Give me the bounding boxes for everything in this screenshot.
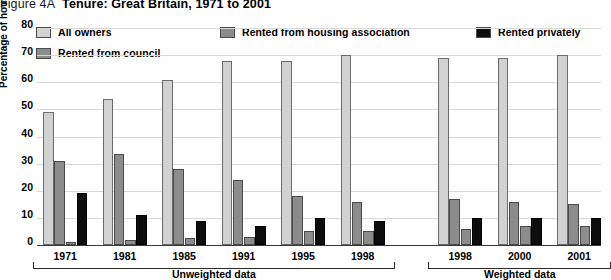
group-bracket-label: Weighted data <box>428 268 611 280</box>
y-axis-tick-label: 30 <box>0 154 33 166</box>
bar-rented-from-council <box>509 202 520 245</box>
bar-rented-privately <box>531 218 542 245</box>
bar-housing-association <box>580 226 591 245</box>
group-bracket-label: Unweighted data <box>33 268 395 280</box>
bar-rented-privately <box>77 193 88 245</box>
bar-group <box>281 28 325 245</box>
bar-group <box>43 28 87 245</box>
bar-rented-from-council <box>173 169 184 245</box>
bar-group <box>103 28 147 245</box>
bar-rented-from-council <box>568 204 579 245</box>
bar-rented-privately <box>196 221 207 245</box>
bar-group <box>498 28 542 245</box>
y-axis-tick-label: 20 <box>0 181 33 193</box>
bar-all-owners <box>103 99 114 245</box>
y-axis-tick-label: 50 <box>0 99 33 111</box>
bar-all-owners <box>438 58 449 245</box>
bar-rented-privately <box>315 218 326 245</box>
bar-rented-from-council <box>449 199 460 245</box>
bar-housing-association <box>185 238 196 245</box>
y-axis-tick-label: 80 <box>0 18 33 30</box>
y-axis-tick-label: 70 <box>0 45 33 57</box>
bar-housing-association <box>461 229 472 245</box>
y-axis-tick-label: 40 <box>0 127 33 139</box>
x-axis-tick-label: 1998 <box>430 250 490 262</box>
bar-all-owners <box>281 61 292 245</box>
bar-rented-privately <box>591 218 602 245</box>
bar-all-owners <box>557 55 568 245</box>
x-axis-tick-label: 1985 <box>154 250 214 262</box>
bar-all-owners <box>162 80 173 245</box>
bar-group <box>438 28 482 245</box>
bar-rented-from-council <box>233 180 244 245</box>
bar-housing-association <box>125 240 136 245</box>
x-axis-tick-label: 1998 <box>333 250 393 262</box>
bar-all-owners <box>498 58 509 245</box>
bar-group <box>162 28 206 245</box>
bar-group <box>222 28 266 245</box>
bar-group <box>557 28 601 245</box>
x-axis-tick-label: 1991 <box>214 250 274 262</box>
bar-group <box>341 28 385 245</box>
bar-all-owners <box>222 61 233 245</box>
page-title: Tenure: Great Britain, 1971 to 2001 <box>62 0 271 11</box>
x-axis-tick-label: 2000 <box>490 250 550 262</box>
chart-title-row: Figure 4A Tenure: Great Britain, 1971 to… <box>0 0 271 12</box>
bar-housing-association <box>520 226 531 245</box>
bar-rented-from-council <box>54 161 65 245</box>
bar-rented-privately <box>136 215 147 245</box>
x-axis-tick-label: 1995 <box>273 250 333 262</box>
bar-housing-association <box>363 231 374 245</box>
y-axis-ticks: 01020304050607080 <box>0 28 33 246</box>
bar-housing-association <box>244 237 255 245</box>
bar-rented-privately <box>472 218 483 245</box>
bar-rented-privately <box>374 221 385 245</box>
bar-housing-association <box>304 231 315 245</box>
bar-rented-from-council <box>292 196 303 245</box>
y-axis-tick-label: 0 <box>0 235 33 247</box>
x-axis-tick-label: 1981 <box>95 250 155 262</box>
bar-rented-privately <box>255 226 266 245</box>
y-axis-tick-label: 60 <box>0 72 33 84</box>
bar-housing-association <box>66 242 77 245</box>
x-axis-line <box>37 245 601 246</box>
x-axis-tick-label: 1971 <box>35 250 95 262</box>
bar-rented-from-council <box>114 154 125 245</box>
y-axis-tick-label: 10 <box>0 208 33 220</box>
bar-all-owners <box>341 55 352 245</box>
bar-all-owners <box>43 112 54 245</box>
x-axis-tick-label: 2001 <box>549 250 609 262</box>
bar-rented-from-council <box>352 202 363 245</box>
plot-area <box>37 28 601 246</box>
